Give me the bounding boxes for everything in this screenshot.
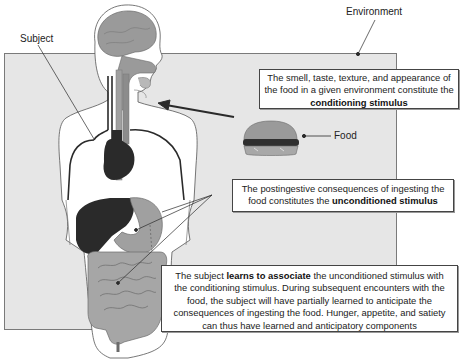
association-text-start: The subject [175,270,223,281]
conditioning-stimulus-term: conditioning stimulus [310,97,407,108]
conditioning-stimulus-box: The smell, taste, texture, and appearanc… [259,69,459,109]
environment-label: Environment [346,6,402,17]
unconditioned-stimulus-box: The postingestive consequences of ingest… [232,179,454,212]
unconditioned-stimulus-term: unconditioned stimulus [332,195,438,206]
hamburger-icon [243,121,299,156]
association-box: The subject learns to associate the unco… [161,265,458,332]
conditioning-text: The smell, taste, texture, and appearanc… [264,72,453,95]
learns-to-associate-term: learns to associate [226,270,310,281]
food-label: Food [334,130,357,141]
subject-label: Subject [20,33,53,44]
